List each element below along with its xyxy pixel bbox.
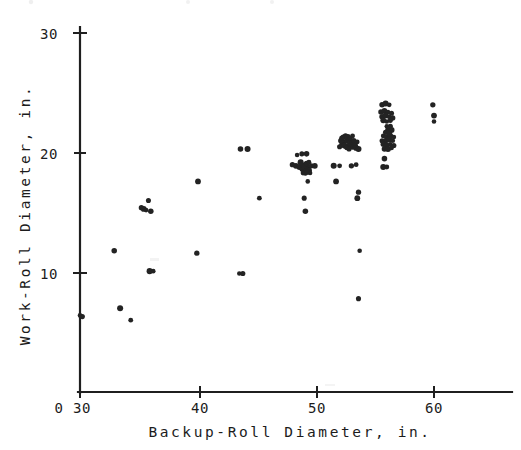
data-point bbox=[80, 314, 85, 319]
data-point bbox=[347, 147, 352, 152]
data-point bbox=[146, 198, 151, 203]
data-point bbox=[387, 102, 392, 107]
y-axis: 30 20 10 bbox=[40, 26, 87, 393]
data-point bbox=[257, 196, 262, 201]
data-point bbox=[339, 136, 345, 142]
data-point bbox=[356, 190, 361, 195]
data-point bbox=[357, 248, 362, 253]
data-point bbox=[194, 251, 199, 256]
data-point bbox=[388, 124, 393, 129]
y-tick-label-30: 30 bbox=[40, 26, 58, 42]
y-tick-label-20: 20 bbox=[40, 146, 58, 162]
data-point bbox=[238, 146, 244, 152]
data-point bbox=[240, 271, 245, 276]
data-point bbox=[356, 296, 361, 301]
data-point bbox=[312, 163, 318, 169]
data-point bbox=[308, 171, 313, 176]
data-points-layer bbox=[78, 101, 437, 323]
data-point bbox=[431, 113, 437, 119]
data-point bbox=[148, 209, 154, 215]
data-point bbox=[144, 208, 149, 213]
x-tick-label-30: 30 bbox=[73, 400, 91, 416]
data-point bbox=[355, 140, 360, 145]
data-point bbox=[354, 162, 359, 167]
plot-canvas: 30 20 10 0 30 40 50 60 Backup-Roll Diame… bbox=[0, 0, 521, 450]
data-point bbox=[299, 151, 304, 156]
data-point bbox=[386, 131, 392, 137]
x-axis: 0 30 40 50 60 bbox=[55, 386, 512, 416]
data-point bbox=[111, 248, 117, 254]
data-point bbox=[349, 163, 354, 168]
x-axis-title: Backup-Roll Diameter, in. bbox=[148, 424, 431, 440]
data-point bbox=[389, 145, 394, 150]
data-point bbox=[350, 133, 355, 138]
data-point bbox=[331, 163, 337, 169]
data-point bbox=[151, 269, 156, 274]
data-point bbox=[337, 144, 342, 149]
x-origin-label: 0 bbox=[55, 400, 64, 416]
y-axis-title: Work-Roll Diameter, in. bbox=[17, 85, 33, 346]
data-point bbox=[245, 146, 251, 152]
data-point bbox=[432, 119, 437, 124]
x-tick-label-50: 50 bbox=[308, 400, 326, 416]
data-point bbox=[117, 305, 123, 311]
x-tick-label-40: 40 bbox=[191, 400, 209, 416]
data-point bbox=[303, 209, 309, 215]
data-point bbox=[382, 156, 388, 162]
data-point bbox=[305, 179, 310, 184]
scatter-plot-figure: 30 20 10 0 30 40 50 60 Backup-Roll Diame… bbox=[0, 0, 521, 450]
data-point bbox=[298, 159, 304, 165]
data-point bbox=[302, 196, 307, 201]
data-point bbox=[304, 151, 310, 157]
data-point bbox=[128, 318, 133, 323]
data-point bbox=[354, 195, 360, 201]
data-point bbox=[388, 118, 393, 123]
data-point bbox=[333, 178, 339, 184]
x-tick-label-60: 60 bbox=[425, 400, 443, 416]
data-point bbox=[384, 165, 389, 170]
data-point bbox=[195, 178, 201, 184]
y-tick-label-10: 10 bbox=[40, 266, 58, 282]
data-point bbox=[355, 146, 361, 152]
data-point bbox=[430, 102, 435, 107]
scan-artifacts bbox=[29, 0, 335, 386]
data-point bbox=[295, 153, 300, 158]
data-point bbox=[337, 163, 342, 168]
